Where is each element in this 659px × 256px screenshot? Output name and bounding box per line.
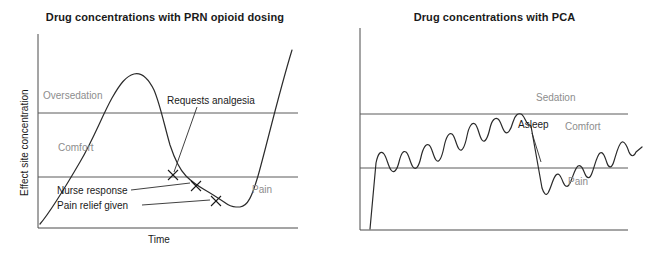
leader-pain-relief-given: [142, 200, 210, 205]
zone-label-comfort-prn: Comfort: [58, 142, 94, 153]
chart-plot-pca: Sedation Comfort Pain Asleep: [330, 0, 659, 256]
annotation-asleep: Asleep: [518, 119, 549, 130]
annotation-requests-analgesia: Requests analgesia: [167, 95, 255, 106]
zone-label-sedation-pca: Sedation: [536, 92, 575, 103]
zone-label-comfort-pca: Comfort: [565, 121, 601, 132]
chart-panel-pca: Drug concentrations with PCA Sedation Co…: [330, 0, 659, 256]
annotation-pain-relief-given: Pain relief given: [57, 200, 128, 211]
concentration-curve-prn: [40, 50, 292, 224]
marker-pain-relief-given: [211, 196, 221, 206]
zone-label-pain-prn: Pain: [252, 184, 272, 195]
concentration-curve-pca: [370, 114, 642, 229]
chart-plot-prn: Oversedation Comfort Pain Requests analg…: [0, 0, 330, 256]
axis-lines-prn: [38, 34, 298, 228]
figure-container: Drug concentrations with PRN opioid dosi…: [0, 0, 659, 256]
annotation-nurse-response: Nurse response: [57, 185, 128, 196]
chart-panel-prn: Drug concentrations with PRN opioid dosi…: [0, 0, 330, 256]
leader-requests-analgesia: [174, 107, 197, 172]
zone-label-pain-pca: Pain: [568, 176, 588, 187]
leader-nurse-response: [131, 183, 190, 190]
marker-requests-analgesia: [168, 170, 178, 180]
zone-label-oversedation-prn: Oversedation: [43, 90, 102, 101]
